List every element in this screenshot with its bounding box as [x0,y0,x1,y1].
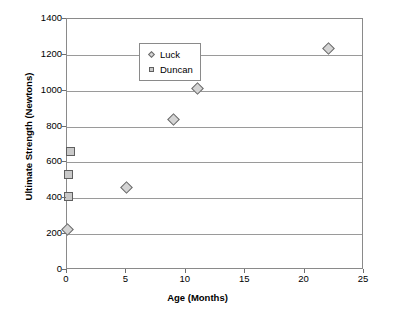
gridline [67,127,362,128]
x-axis-title: Age (Months) [0,292,395,303]
plot-area: Luck Duncan [66,18,363,269]
x-axis-tick-label: 25 [348,274,378,284]
data-point-luck [120,181,133,194]
legend-label: Duncan [160,65,193,75]
legend-item-duncan: Duncan [145,63,193,76]
x-axis-tick-label: 15 [229,274,259,284]
data-point-luck [322,42,335,55]
data-point-luck [168,113,181,126]
y-axis-tick [62,126,66,127]
y-axis-tick [62,233,66,234]
legend-item-luck: Luck [145,48,193,61]
data-point-luck [191,82,204,95]
x-axis-tick-label: 20 [289,274,319,284]
gridline [67,91,362,92]
diamond-marker-icon [145,52,157,57]
square-marker-icon [145,67,157,72]
scatter-chart-figure: Luck Duncan 0200400600800100012001400 05… [0,0,395,311]
y-axis-title: Ultimate Strength (Newtons) [23,17,34,257]
gridline [67,162,362,163]
gridline [67,198,362,199]
y-axis-tick [62,90,66,91]
y-axis-tick [62,161,66,162]
x-axis-tick-label: 5 [110,274,140,284]
y-axis-tick-label: 0 [22,264,62,274]
data-point-duncan [64,170,73,179]
x-axis-tick-label: 0 [51,274,81,284]
gridline [67,234,362,235]
gridline [67,55,362,56]
legend-label: Luck [160,50,180,60]
chart-legend: Luck Duncan [139,43,201,81]
data-point-duncan [66,147,75,156]
y-axis-tick [62,54,66,55]
y-axis-tick [62,197,66,198]
x-axis-tick-label: 10 [170,274,200,284]
y-axis-tick [62,18,66,19]
